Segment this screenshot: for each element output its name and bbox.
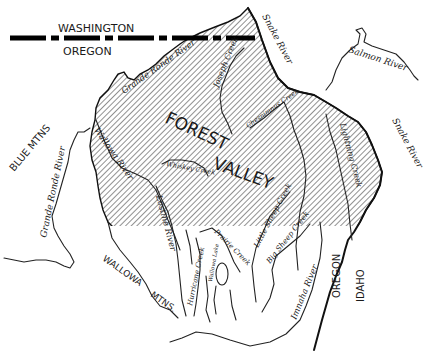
forest-valley-map: WASHINGTON OREGON Snake River Salmon Riv… — [0, 0, 424, 357]
label-hurricane-creek: Hurricane Creek — [186, 246, 206, 307]
label-oregon-east: OREGON — [331, 254, 342, 298]
label-imnaha-river: Imnaha River — [288, 262, 320, 322]
tributary — [186, 230, 192, 264]
wallowa-lake-inlet — [214, 286, 216, 314]
label-idaho: IDAHO — [355, 269, 366, 302]
tributary — [230, 290, 236, 320]
label-blue-mtns: BLUE MTNS — [7, 122, 52, 173]
label-wallowa: WALLOWA — [101, 253, 145, 288]
label-snake-river-east: Snake River — [390, 116, 424, 170]
label-washington: WASHINGTON — [58, 22, 134, 35]
tributary — [206, 276, 210, 322]
label-grande-ronde-river-west: Grande Ronde River — [38, 145, 67, 239]
label-mtns: MTNS. — [149, 289, 178, 314]
label-wallowa-lake: Wallowa Lake — [207, 242, 220, 282]
wallowa-lake — [216, 263, 228, 285]
label-oregon-north: OREGON — [63, 45, 112, 58]
